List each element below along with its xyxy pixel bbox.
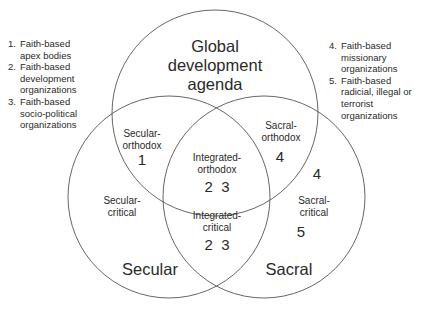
region-label: Integrated- [182,152,252,164]
region-label: orthodox [182,164,252,176]
legend-number: 1. [8,38,16,50]
region-label: Sacral- [284,195,344,207]
legend-item-5: 5. Faith-based radicial, illegal or terr… [329,75,431,121]
integrated-orthodox-region: Integrated- orthodox [182,152,252,176]
region-label: Sacral- [251,120,311,132]
sacral-critical-region: Sacral- critical [284,195,344,219]
integrated-critical-region: Integrated- critical [182,210,252,234]
integrated-critical-numbers: 2 3 [192,237,242,253]
secular-critical-region: Secular- critical [92,195,152,219]
region-label: Secular- [112,128,172,140]
legend-text: missionary [341,52,431,64]
label-line: development [165,56,265,75]
legend-text: radicial, illegal or [341,86,431,98]
legend-text: terrorist [341,98,431,110]
label-line: Global [165,37,265,56]
legend-text: organizations [341,110,431,122]
legend-text: apex bodies [20,50,118,62]
legend-number: 4. [329,40,337,52]
region-label: critical [92,207,152,219]
secular-orthodox-numbers: 1 [132,152,152,168]
legend-text: development [20,73,118,85]
legend-right: 4. Faith-based missionary organizations … [329,40,431,121]
secular-orthodox-region: Secular- orthodox [112,128,172,152]
legend-left: 1. Faith-based apex bodies 2. Faith-base… [8,38,118,131]
legend-number: 2. [8,61,16,73]
label-line: agenda [165,75,265,94]
integrated-orthodox-numbers: 2 3 [192,179,242,195]
sacral-critical-numbers: 5 [291,224,311,240]
sacral-critical-number-above: 4 [307,166,327,182]
legend-text: Faith-based [20,38,118,50]
region-label: critical [284,207,344,219]
legend-text: Faith-based [341,75,431,87]
legend-text: Faith-based [341,40,431,52]
global-agenda-label: Global development agenda [165,37,265,94]
legend-item-3: 3. Faith-based socio-political organizat… [8,96,118,131]
legend-text: organizations [341,63,431,75]
legend-number: 5. [329,75,337,87]
legend-item-2: 2. Faith-based development organizations [8,61,118,96]
region-label: Integrated- [182,210,252,222]
sacral-orthodox-numbers: 4 [270,149,290,165]
region-label: critical [182,222,252,234]
secular-label: Secular [110,260,190,279]
region-label: Secular- [92,195,152,207]
legend-text: Faith-based [20,96,118,108]
legend-text: Faith-based [20,61,118,73]
legend-number: 3. [8,96,16,108]
legend-text: organizations [20,84,118,96]
region-label: orthodox [251,132,311,144]
legend-text: organizations [20,119,118,131]
legend-text: socio-political [20,108,118,120]
legend-item-1: 1. Faith-based apex bodies [8,38,118,61]
legend-item-4: 4. Faith-based missionary organizations [329,40,431,75]
sacral-orthodox-region: Sacral- orthodox [251,120,311,144]
sacral-label: Sacral [249,260,329,279]
